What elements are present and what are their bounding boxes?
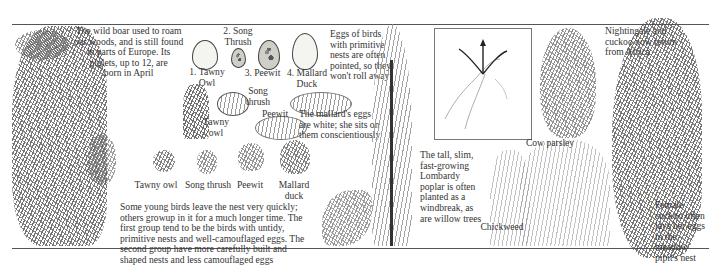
peewit-chick-icon <box>238 143 264 171</box>
poplar-caption: The tall, slim, fast-growing Lombardy po… <box>420 150 481 224</box>
poplar-trunk <box>390 60 393 246</box>
egg-label-mallard-duck: 4. Mallard Duck <box>285 68 329 89</box>
mallard-note-caption: The mallard's eggs are white; she sits o… <box>299 109 380 141</box>
mallard-duckling-icon <box>280 140 310 174</box>
wild-boar-caption: The wild boar used to roam our woods, an… <box>74 26 183 79</box>
nest-label-peewit: Peewit <box>255 109 295 120</box>
song-thrush-chick-icon <box>197 150 217 174</box>
tawny-owl-chick-icon <box>153 150 175 172</box>
nest-label-song-thrush: Song thrush <box>238 86 278 107</box>
chick-label-song-thrush: Song thrush <box>178 180 238 191</box>
boar-piglet-illustration <box>15 30 70 60</box>
chick-label-mallard-duck: Mallard duck <box>272 180 316 201</box>
chickweed-label: Chickweed <box>472 222 532 233</box>
cow-parsley-illustration <box>520 140 610 246</box>
migration-map <box>434 28 532 140</box>
cow-parsley-label: Cow parsley <box>515 138 585 149</box>
chick-label-peewit: Peewit <box>230 180 270 191</box>
song-thrush-egg-icon <box>231 48 246 68</box>
egg-label-song-thrush: 2. Song Thrush <box>218 26 258 47</box>
mallard-duck-egg-icon <box>292 33 318 70</box>
boar-piglet-illustration <box>88 135 116 185</box>
peewit-egg-icon <box>258 40 280 70</box>
chick-label-tawny-owl: Tawny owl <box>128 180 184 191</box>
migration-arrows-icon <box>435 29 531 139</box>
egg-label-peewit: 3. Peewit <box>240 68 285 79</box>
cuckoo-caption: Female cuckoo often lays her eggs in the… <box>655 200 709 264</box>
nightingale-illustration <box>540 28 596 138</box>
young-birds-caption: Some young birds leave the nest very qui… <box>120 202 304 266</box>
nest-label-tawny-owl: Tawny owl <box>196 117 236 138</box>
